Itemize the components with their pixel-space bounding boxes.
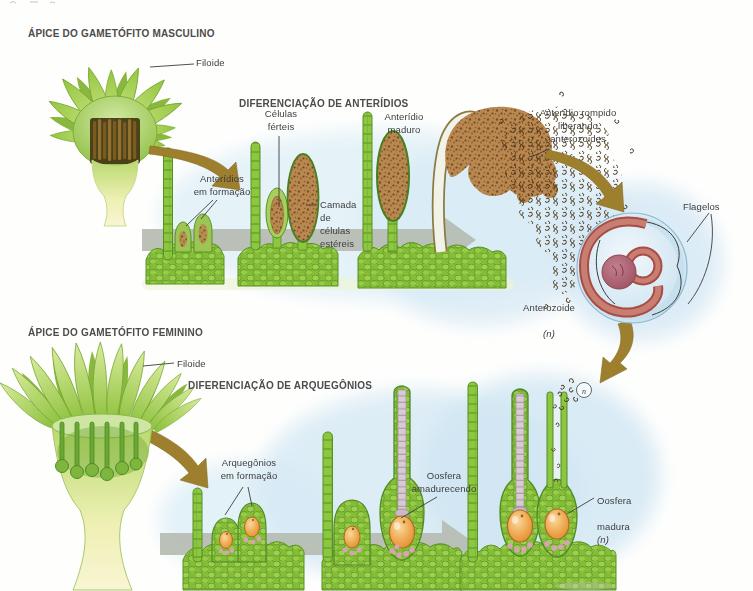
- flagelos-label: Flagelos: [683, 200, 720, 213]
- diagram-artwork: n: [0, 0, 753, 591]
- oosfera-amadurecendo-label: Oosfera amadurecendo: [412, 469, 477, 495]
- camada-celulas-estereis-label: Camada de células estéreis: [320, 198, 357, 250]
- celulas-ferteis-label: Células férteis: [265, 107, 297, 133]
- ploidy-circle-label: n: [582, 387, 586, 396]
- antheridia-bundle: [90, 118, 140, 164]
- archegonium-neck-canal: [516, 394, 524, 512]
- female-section-title: ÁPICE DO GAMETÓFITO FEMININO: [28, 326, 203, 339]
- oosfera-egg-maturing: [390, 516, 415, 548]
- anterozoide-nucleus: [602, 255, 636, 289]
- oosfera-madura-label: Oosfera madura (n): [597, 481, 632, 546]
- anterozoide-cell: [577, 213, 687, 323]
- anterozoide-ploidy: (n): [543, 328, 555, 339]
- archegonium-neck-canal: [398, 390, 406, 512]
- anteridios-em-formacao-label: Anterídios em formação: [194, 172, 251, 198]
- anteridio-rompido-label: Anterídio rompido liberando anterozoides: [540, 106, 617, 145]
- filoide-label-female: Filoide: [177, 357, 206, 370]
- anterozoide-label: Anterozoide (n): [523, 288, 575, 340]
- oosfera-madura-ploidy: (n): [597, 534, 609, 545]
- male-section-title: ÁPICE DO GAMETÓFITO MASCULINO: [28, 27, 215, 40]
- figure-canvas: n ÁPICE DO GAMETÓFITO MASCULINO Filoide …: [0, 0, 753, 591]
- oosfera-egg-mature: [508, 510, 533, 542]
- archegonia-sequence-title: DIFERENCIAÇÃO DE ARQUEGÔNIOS: [188, 379, 372, 392]
- arquegonios-em-formacao-label: Arquegônios em formação: [221, 456, 278, 482]
- cropped-text-artifact: [10, 2, 55, 4]
- anteridio-maduro-label: Anterídio maduro: [385, 110, 424, 136]
- filoide-label-male: Filoide: [196, 56, 225, 69]
- oosfera-egg-mature: [545, 509, 569, 539]
